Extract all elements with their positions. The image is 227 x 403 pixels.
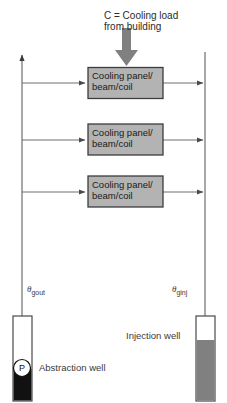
abstraction-temperature-label: θgout [27,284,45,294]
cooling-load-line-2: from building [104,21,178,32]
cooling-unit-1-label-line-2: beam/coil [92,81,164,92]
groundwater-cooling-diagram: C = Cooling load from building Cooling p… [0,0,227,403]
theta-gout-subscript: gout [31,289,45,296]
cooling-unit-2-label: Cooling panel/ beam/coil [92,127,164,149]
injection-well-water [197,340,215,400]
theta-ginj-subscript: ginj [176,289,187,296]
cooling-unit-1-label: Cooling panel/ beam/coil [92,70,164,92]
diagram-canvas [0,0,227,403]
pump-label: P [14,363,30,373]
abstraction-well-label: Abstraction well [39,363,106,374]
injection-well-label: Injection well [126,331,180,342]
injection-well-group [196,316,215,401]
cooling-unit-3-label: Cooling panel/ beam/coil [92,179,164,201]
cooling-load-line-1: C = Cooling load [104,10,178,21]
cooling-load-annotation: C = Cooling load from building [104,10,178,32]
cooling-unit-2-label-line-2: beam/coil [92,138,164,149]
cooling-unit-3-label-line-1: Cooling panel/ [92,179,164,190]
cooling-unit-1-label-line-1: Cooling panel/ [92,70,164,81]
injection-temperature-label: θginj [172,284,187,294]
cooling-unit-3-label-line-2: beam/coil [92,190,164,201]
abstraction-well-group [13,316,32,401]
cooling-load-arrow [115,28,138,66]
cooling-unit-2-label-line-1: Cooling panel/ [92,127,164,138]
